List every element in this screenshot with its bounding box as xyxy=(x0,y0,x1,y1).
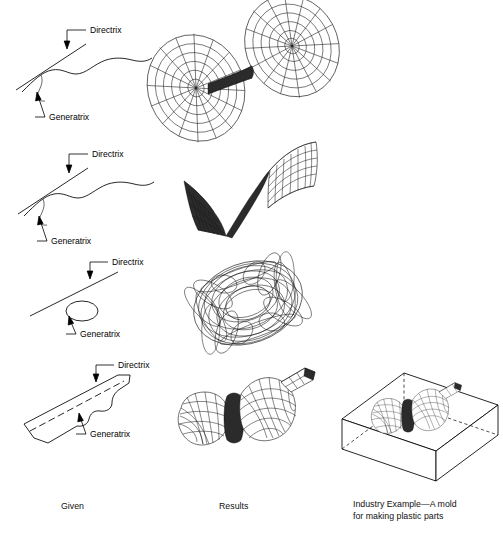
column-caption-results: Results xyxy=(219,500,248,512)
row-2-generatrix-label: Generatrix xyxy=(51,236,92,246)
row-3-directrix-arrowhead xyxy=(87,271,93,279)
row-4-result xyxy=(178,368,315,445)
column-caption-given: Given xyxy=(61,500,84,512)
row-3-directrix-label: Directrix xyxy=(112,257,144,267)
right-lobe-rim xyxy=(227,0,357,114)
row-4-generatrix-arrowhead xyxy=(78,413,84,422)
row-3-generatrix-ellipse xyxy=(66,301,98,321)
figure-canvas: Directrix Generatrix xyxy=(0,0,503,536)
figure-svg: Directrix Generatrix xyxy=(0,0,503,536)
row-2-generatrix-arrowhead xyxy=(38,216,44,225)
row-1-generatrix-label: Generatrix xyxy=(49,112,90,122)
row-1-right-lobe xyxy=(227,0,357,114)
row-2-directrix-arrowhead xyxy=(66,165,72,173)
row-4-directrix-label: Directrix xyxy=(118,360,150,370)
row-2-spine xyxy=(226,170,270,238)
row-4-given: Directrix Generatrix xyxy=(24,360,150,443)
row-2-directrix-line xyxy=(18,168,88,214)
row-1-left-lobe xyxy=(131,20,260,156)
row-2-directrix-label: Directrix xyxy=(92,149,124,159)
row-4-directrix-arrowhead xyxy=(93,374,99,382)
row-1-directrix-arrowhead xyxy=(64,41,70,49)
row-1-result xyxy=(131,0,357,156)
row-4-directrix-dashed xyxy=(30,381,124,431)
column-caption-industry: Industry Example—A mold for making plast… xyxy=(353,498,457,522)
row-2-generatrix-curve xyxy=(24,182,154,216)
row-2-result xyxy=(184,142,317,238)
row-1-given: Directrix Generatrix xyxy=(16,25,152,122)
industry-example xyxy=(342,373,498,481)
row-4-generatrix-label: Generatrix xyxy=(90,429,131,439)
row-1-directrix-label: Directrix xyxy=(90,25,122,35)
row-3-generatrix-label: Generatrix xyxy=(80,329,121,339)
row-1-generatrix-arrowhead xyxy=(36,92,42,101)
row-3-result xyxy=(175,241,321,365)
row-3-given: Directrix Generatrix xyxy=(30,257,144,339)
row-1-directrix-line xyxy=(16,44,86,90)
row-1-generatrix-curve xyxy=(22,58,152,92)
row-2-given: Directrix Generatrix xyxy=(18,149,154,246)
